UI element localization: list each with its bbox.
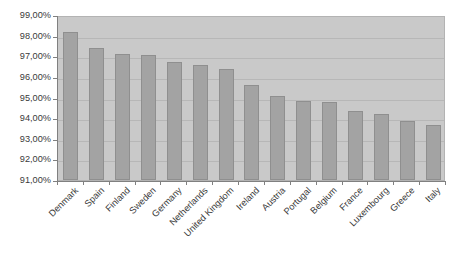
x-axis-tick-mark <box>160 182 161 185</box>
x-axis: DenmarkSpainFinlandSwedenGermanyNetherla… <box>0 181 464 255</box>
y-axis-tick-label: 97,00% <box>0 53 51 62</box>
x-axis-tick-mark <box>445 182 446 185</box>
x-axis-tick-mark <box>83 182 84 185</box>
y-axis-tick-label: 93,00% <box>0 135 51 144</box>
bar <box>167 62 182 180</box>
bar <box>270 96 285 180</box>
bar <box>296 101 311 180</box>
x-axis-tick-mark <box>316 182 317 185</box>
x-axis-tick-mark <box>212 182 213 185</box>
bar <box>89 48 104 180</box>
bar-chart: 99,00%98,00%97,00%96,00%95,00%94,00%93,0… <box>0 0 464 255</box>
y-axis-tick-mark <box>53 99 57 100</box>
y-axis-tick-mark <box>53 140 57 141</box>
bar <box>348 111 363 180</box>
x-axis-tick-mark <box>393 182 394 185</box>
y-axis-tick-mark <box>53 57 57 58</box>
x-axis-tick-mark <box>342 182 343 185</box>
x-axis-tick-label: Netherlands <box>60 186 210 255</box>
y-axis-tick-label: 96,00% <box>0 73 51 82</box>
x-axis-tick-mark <box>186 182 187 185</box>
y-axis-tick-mark <box>53 119 57 120</box>
bar <box>322 102 337 180</box>
bar <box>115 54 130 180</box>
y-axis-tick-label: 99,00% <box>0 11 51 20</box>
bar <box>141 55 156 180</box>
bar <box>374 114 389 180</box>
y-axis-tick-mark <box>53 160 57 161</box>
y-axis-tick-label: 98,00% <box>0 32 51 41</box>
x-axis-tick-mark <box>367 182 368 185</box>
y-axis-tick-mark <box>53 78 57 79</box>
x-axis-tick-mark <box>290 182 291 185</box>
x-axis-tick-mark <box>57 182 58 185</box>
bar <box>219 69 234 180</box>
y-axis-tick-label: 95,00% <box>0 94 51 103</box>
bar <box>193 65 208 181</box>
x-axis-tick-mark <box>238 182 239 185</box>
bar <box>426 125 441 180</box>
y-axis-tick-label: 94,00% <box>0 115 51 124</box>
bars-group <box>58 17 444 180</box>
x-axis-tick-mark <box>419 182 420 185</box>
bar <box>63 32 78 181</box>
plot-area <box>57 16 445 181</box>
bar <box>244 85 259 180</box>
x-axis-tick-mark <box>135 182 136 185</box>
y-axis-line <box>57 16 58 182</box>
y-axis-tick-mark <box>53 37 57 38</box>
x-axis-tick-mark <box>109 182 110 185</box>
y-axis-tick-label: 92,00% <box>0 156 51 165</box>
x-axis-tick-mark <box>264 182 265 185</box>
bar <box>400 121 415 180</box>
y-axis-tick-mark <box>53 16 57 17</box>
